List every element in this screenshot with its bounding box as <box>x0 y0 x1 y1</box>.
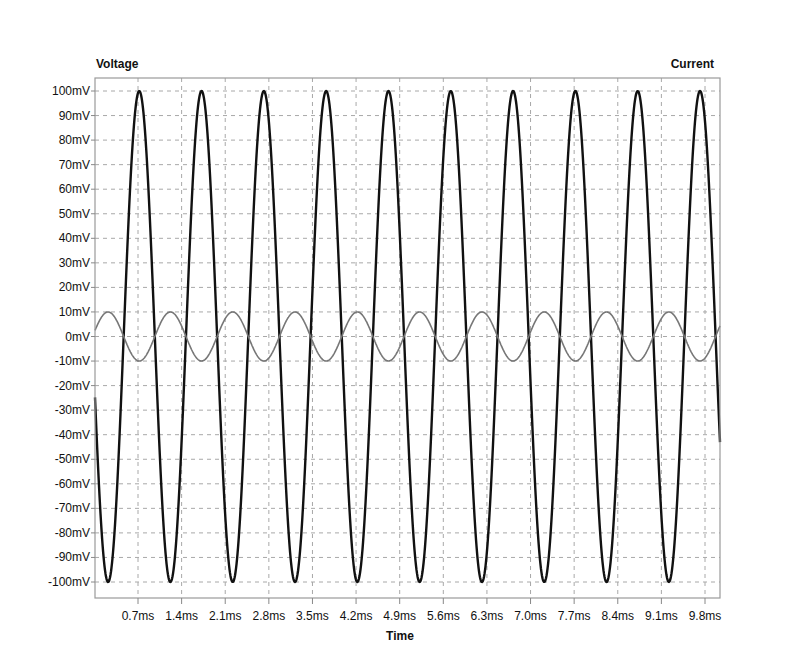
x-tick-label: 2.1ms <box>209 609 242 623</box>
y-tick-label: -40mV <box>55 428 90 442</box>
x-tick-label: 2.8ms <box>253 609 286 623</box>
y-tick-label: 0mV <box>65 330 90 344</box>
y-tick-label: -80mV <box>55 526 90 540</box>
y-tick-label: 20mV <box>59 280 90 294</box>
y-tick-label: 100mV <box>52 84 90 98</box>
y-tick-label: -10mV <box>55 354 90 368</box>
y-tick-label: 60mV <box>59 182 90 196</box>
y-tick-label: -30mV <box>55 403 90 417</box>
x-axis-title: Time <box>386 629 414 643</box>
y-tick-label: -60mV <box>55 477 90 491</box>
y-tick-label: 80mV <box>59 133 90 147</box>
x-tick-label: 9.1ms <box>645 609 678 623</box>
y-tick-label: -100mV <box>48 575 90 589</box>
chart: 100mV90mV80mV70mV60mV50mV40mV30mV20mV10m… <box>0 0 805 668</box>
y-tick-label: -70mV <box>55 501 90 515</box>
x-tick-label: 9.8ms <box>689 609 722 623</box>
y-tick-label: 90mV <box>59 109 90 123</box>
y-tick-label: 50mV <box>59 207 90 221</box>
x-tick-label: 8.4ms <box>601 609 634 623</box>
y-tick-label: -90mV <box>55 550 90 564</box>
x-tick-label: 1.4ms <box>165 609 198 623</box>
y-tick-label: 40mV <box>59 231 90 245</box>
x-tick-label: 7.7ms <box>558 609 591 623</box>
y-tick-label: 30mV <box>59 256 90 270</box>
y-tick-label: -50mV <box>55 452 90 466</box>
y-tick-label: 10mV <box>59 305 90 319</box>
x-tick-label: 6.3ms <box>471 609 504 623</box>
y-tick-label: 70mV <box>59 158 90 172</box>
left-axis-title: Voltage <box>96 57 139 71</box>
x-tick-label: 5.6ms <box>427 609 460 623</box>
x-tick-label: 4.9ms <box>383 609 416 623</box>
y-tick-label: -20mV <box>55 379 90 393</box>
x-tick-label: 4.2ms <box>340 609 373 623</box>
x-tick-label: 0.7ms <box>122 609 155 623</box>
right-axis-title: Current <box>671 57 714 71</box>
x-tick-label: 7.0ms <box>514 609 547 623</box>
x-tick-label: 3.5ms <box>296 609 329 623</box>
